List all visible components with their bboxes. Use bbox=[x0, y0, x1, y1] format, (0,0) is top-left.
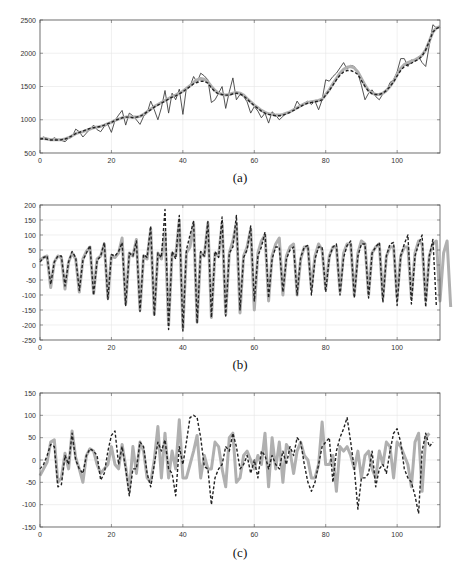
y-tick-label: 1500 bbox=[20, 83, 36, 90]
y-tick-label: -100 bbox=[22, 501, 36, 508]
series-smoothed bbox=[40, 27, 440, 140]
series-predicted bbox=[40, 210, 436, 332]
x-tick-label: 80 bbox=[322, 157, 330, 164]
x-tick-label: 20 bbox=[108, 157, 116, 164]
chart-b: 020406080100-250-200-150-100-50050100150… bbox=[22, 202, 451, 373]
y-tick-label: 2000 bbox=[20, 50, 36, 57]
y-tick-label: -100 bbox=[22, 292, 36, 299]
x-tick-label: 0 bbox=[38, 157, 42, 164]
x-tick-label: 80 bbox=[322, 344, 330, 351]
x-tick-label: 40 bbox=[179, 531, 187, 538]
y-tick-label: 0 bbox=[32, 457, 36, 464]
caption-a: (a) bbox=[233, 170, 247, 185]
y-tick-label: 150 bbox=[24, 390, 36, 397]
y-tick-label: 100 bbox=[24, 412, 36, 419]
chart-c: 020406080100-150-100-50050100150(c) bbox=[22, 390, 440, 561]
y-tick-label: 50 bbox=[28, 434, 36, 441]
x-tick-label: 20 bbox=[108, 531, 116, 538]
series-predicted bbox=[40, 27, 440, 140]
y-tick-label: 2500 bbox=[20, 17, 36, 24]
y-tick-label: 100 bbox=[24, 232, 36, 239]
caption-b: (b) bbox=[232, 357, 247, 372]
x-tick-label: 60 bbox=[250, 344, 258, 351]
series-cyclical-component bbox=[40, 220, 451, 328]
y-tick-label: -150 bbox=[22, 307, 36, 314]
x-tick-label: 100 bbox=[391, 157, 403, 164]
y-tick-label: 1000 bbox=[20, 116, 36, 123]
grid bbox=[40, 393, 440, 527]
y-tick-label: -250 bbox=[22, 337, 36, 344]
grid bbox=[40, 20, 440, 153]
x-axis: 020406080100 bbox=[38, 20, 403, 164]
series-observed bbox=[40, 25, 440, 142]
x-tick-label: 20 bbox=[108, 344, 116, 351]
caption-c: (c) bbox=[233, 545, 247, 560]
chart-a: 0204060801005001000150020002500(a) bbox=[20, 17, 440, 186]
y-tick-label: -150 bbox=[22, 524, 36, 531]
x-tick-label: 100 bbox=[391, 344, 403, 351]
x-tick-label: 0 bbox=[38, 531, 42, 538]
x-tick-label: 60 bbox=[250, 157, 258, 164]
x-tick-label: 80 bbox=[322, 531, 330, 538]
x-tick-label: 60 bbox=[250, 531, 258, 538]
y-tick-label: -200 bbox=[22, 322, 36, 329]
figure-canvas: 0204060801005001000150020002500(a)020406… bbox=[0, 0, 464, 575]
y-tick-label: -50 bbox=[26, 479, 36, 486]
x-tick-label: 40 bbox=[179, 157, 187, 164]
y-tick-label: 150 bbox=[24, 217, 36, 224]
y-tick-label: 200 bbox=[24, 202, 36, 209]
y-tick-label: 50 bbox=[28, 247, 36, 254]
y-tick-label: 0 bbox=[32, 262, 36, 269]
y-tick-label: 500 bbox=[24, 150, 36, 157]
x-tick-label: 100 bbox=[391, 531, 403, 538]
x-tick-label: 40 bbox=[179, 344, 187, 351]
y-tick-label: -50 bbox=[26, 277, 36, 284]
y-axis: -250-200-150-100-50050100150200 bbox=[22, 202, 440, 344]
x-tick-label: 0 bbox=[38, 344, 42, 351]
